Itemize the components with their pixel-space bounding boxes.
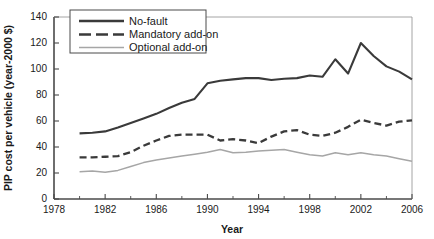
x-tick-label: 2002 — [350, 204, 373, 215]
x-tick-label: 1982 — [94, 204, 117, 215]
x-tick-label: 1978 — [43, 204, 66, 215]
y-tick-label: 100 — [30, 63, 47, 74]
y-tick-label: 60 — [36, 115, 48, 126]
x-tick-label: 1994 — [247, 204, 270, 215]
y-axis-label: PIP cost per vehicle (year-2000 $) — [2, 25, 14, 191]
line-chart: 19781982198619901994199820022006 0204060… — [0, 0, 434, 239]
y-tick-label: 140 — [30, 11, 47, 22]
chart-legend: No-fault Mandatory add-on Optional add-o… — [70, 10, 218, 53]
y-tick-label: 120 — [30, 37, 47, 48]
y-tick-label: 80 — [36, 89, 48, 100]
chart-figure: 19781982198619901994199820022006 0204060… — [0, 0, 434, 239]
x-tick-label: 1998 — [299, 204, 322, 215]
legend-label-0: No-fault — [129, 15, 168, 27]
x-tick-label: 1986 — [145, 204, 168, 215]
x-axis-label: Year — [221, 223, 243, 235]
x-tick-label: 1990 — [196, 204, 219, 215]
y-tick-label: 0 — [41, 193, 47, 204]
legend-label-1: Mandatory add-on — [129, 28, 218, 40]
y-tick-label: 20 — [36, 167, 48, 178]
y-tick-label: 40 — [36, 141, 48, 152]
x-tick-label: 2006 — [401, 204, 424, 215]
legend-label-2: Optional add-on — [129, 41, 207, 53]
